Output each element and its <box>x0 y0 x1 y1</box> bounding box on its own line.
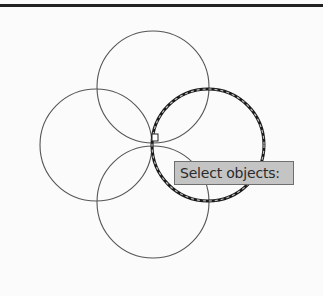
circle-top[interactable] <box>97 31 209 143</box>
pickbox-cursor-icon <box>152 134 158 141</box>
cad-drawing-viewport[interactable]: Select objects: <box>0 0 323 296</box>
command-prompt-tooltip: Select objects: <box>174 161 294 185</box>
drawing-canvas[interactable] <box>0 0 323 296</box>
tooltip-text: Select objects: <box>180 165 280 181</box>
circle-left[interactable] <box>40 89 152 201</box>
